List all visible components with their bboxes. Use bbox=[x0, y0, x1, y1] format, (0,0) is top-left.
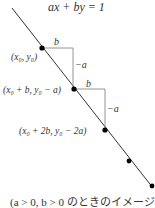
lattice-line-diagram bbox=[0, 0, 155, 208]
step-minus-a-label-1: −a bbox=[75, 60, 87, 70]
point-label-3: (x₀ + 2b, y₀ − 2a) bbox=[19, 127, 86, 137]
point-x0-y0 bbox=[39, 45, 44, 50]
step-guide-2 bbox=[74, 89, 105, 130]
point-label-2: (x₀ + b, y₀ − a) bbox=[3, 86, 61, 96]
point-x0-plus-2b bbox=[102, 127, 107, 132]
point-5 bbox=[150, 184, 155, 189]
step-guide-1 bbox=[42, 48, 73, 89]
point-label-1: (x₀, y₀) bbox=[11, 53, 37, 63]
step-minus-a-label-2: −a bbox=[107, 104, 119, 114]
line-ax-by-1 bbox=[12, 8, 153, 188]
point-4 bbox=[127, 159, 132, 164]
caption: (a > 0, b > 0 のときのイメージ) bbox=[10, 197, 155, 208]
equation-label: ax + by = 1 bbox=[48, 1, 105, 13]
step-b-label-2: b bbox=[86, 79, 91, 89]
point-x0-plus-b bbox=[71, 86, 76, 91]
step-b-label-1: b bbox=[54, 37, 59, 47]
